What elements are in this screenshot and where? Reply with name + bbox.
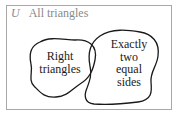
set-label-line: triangles [30,63,90,76]
set-label-line: equal [104,63,154,76]
set-label-line: Exactly [104,38,154,51]
set-label-line: sides [104,76,154,89]
set-right-triangles-label: Right triangles [30,50,90,75]
set-equal-sides-label: Exactly two equal sides [104,38,154,88]
set-label-line: Right [30,50,90,63]
